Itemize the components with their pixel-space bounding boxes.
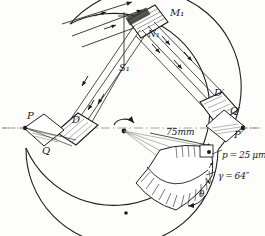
label-mirror-n1: N₁ (148, 30, 159, 39)
label-pitch: p = 25 μm (222, 151, 265, 160)
label-radius-dim: 75mm (166, 128, 195, 137)
label-prism-d: D (72, 115, 80, 125)
beam-left-direction-arrows (82, 76, 104, 110)
label-mirror-m1: M₁ (170, 8, 184, 18)
mirror-m1 (126, 5, 168, 38)
label-angle-gamma: γ = 64″ (218, 172, 249, 181)
label-slit-s1: S₁ (119, 63, 130, 73)
label-rotation-theta: θ (199, 190, 204, 199)
label-point-q-prime: Q′ (230, 106, 240, 116)
label-point-q: Q (42, 146, 50, 156)
disc-outline (26, 0, 241, 236)
label-point-p-prime: P′ (234, 130, 243, 140)
optical-diagram-svg (0, 0, 265, 236)
label-point-p: P (27, 111, 34, 121)
figure-canvas: M₁ N₁ S₁ P D Q D′ Q′ P′ 75mm p = 25 μm γ… (0, 0, 265, 236)
disc-bottom-mark (124, 211, 128, 215)
label-prism-d-prime: D′ (214, 88, 224, 98)
